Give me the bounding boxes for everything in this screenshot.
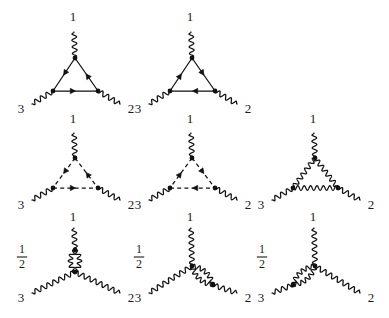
leg-label-1: 1 bbox=[310, 209, 317, 224]
leg-label-1: 1 bbox=[70, 9, 77, 24]
vertex-bottom-left bbox=[168, 89, 173, 94]
leg-label-1: 1 bbox=[70, 209, 77, 224]
vertex-bottom-right bbox=[213, 89, 218, 94]
vertex-bottom-left bbox=[291, 186, 296, 191]
vertex-center bbox=[313, 264, 318, 269]
leg-label-2: 2 bbox=[245, 290, 252, 305]
leg-label-3: 3 bbox=[258, 197, 265, 212]
prefactor-numerator: 1 bbox=[19, 242, 25, 256]
prefactor-numerator: 1 bbox=[136, 242, 142, 256]
leg-label-2: 2 bbox=[245, 101, 252, 116]
leg-label-1: 1 bbox=[70, 111, 77, 126]
leg-label-3: 3 bbox=[18, 197, 25, 212]
leg-label-3: 3 bbox=[18, 290, 25, 305]
vertex-bubble-right bbox=[211, 283, 216, 288]
leg-label-3: 3 bbox=[135, 197, 142, 212]
prefactor-denominator: 2 bbox=[136, 257, 142, 271]
leg-label-3: 3 bbox=[135, 290, 142, 305]
feynman-diagram-figure: 132132132132132132121321213212 bbox=[0, 0, 389, 318]
leg-label-2: 2 bbox=[368, 197, 375, 212]
vertex-top bbox=[313, 156, 318, 161]
vertex-top bbox=[73, 156, 78, 161]
vertex-top bbox=[190, 56, 195, 61]
vertex-bubble-left bbox=[291, 283, 296, 288]
vertex-bottom-left bbox=[168, 186, 173, 191]
vertex-bottom-left bbox=[51, 89, 56, 94]
leg-label-1: 1 bbox=[310, 111, 317, 126]
leg-label-2: 2 bbox=[128, 290, 135, 305]
leg-label-1: 1 bbox=[187, 209, 194, 224]
vertex-bubble-top bbox=[73, 248, 78, 253]
leg-label-2: 2 bbox=[245, 197, 252, 212]
vertex-bottom-right bbox=[96, 186, 101, 191]
vertex-top bbox=[73, 56, 78, 61]
leg-label-3: 3 bbox=[18, 101, 25, 116]
leg-label-3: 3 bbox=[258, 290, 265, 305]
vertex-center bbox=[190, 264, 195, 269]
leg-label-2: 2 bbox=[368, 290, 375, 305]
leg-label-3: 3 bbox=[135, 101, 142, 116]
leg-label-2: 2 bbox=[128, 101, 135, 116]
leg-label-1: 1 bbox=[187, 111, 194, 126]
vertex-bottom-left bbox=[51, 186, 56, 191]
vertex-bottom-right bbox=[336, 186, 341, 191]
prefactor-denominator: 2 bbox=[259, 257, 265, 271]
vertex-center bbox=[73, 270, 78, 275]
leg-label-2: 2 bbox=[128, 197, 135, 212]
vertex-top bbox=[190, 156, 195, 161]
prefactor-numerator: 1 bbox=[259, 242, 265, 256]
vertex-bottom-right bbox=[96, 89, 101, 94]
leg-label-1: 1 bbox=[187, 9, 194, 24]
prefactor-denominator: 2 bbox=[19, 257, 25, 271]
vertex-bottom-right bbox=[213, 186, 218, 191]
